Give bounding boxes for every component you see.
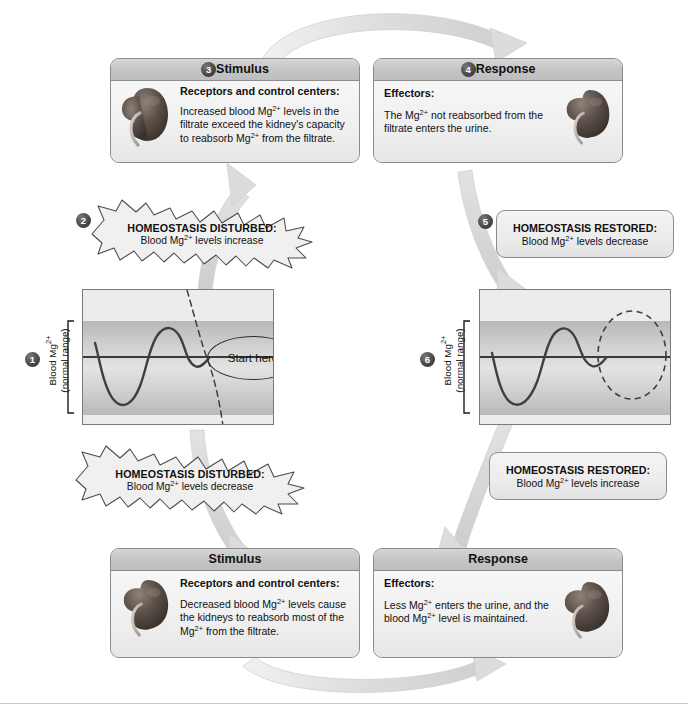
box-stimulus-top[interactable]: 3Stimulus: [110, 58, 360, 163]
box-response-top-header-label: Response: [476, 62, 536, 76]
kidney-icon: [119, 575, 173, 639]
box-stimulus-bottom-text: Receptors and control centers: Decreased…: [180, 577, 355, 638]
box-response-bottom-header: Response: [374, 549, 622, 571]
left-graph-solid-curve: [95, 328, 209, 405]
graph-left: Start here: [82, 289, 274, 425]
box-response-bottom-body: Effectors: Less Mg2+ enters the urine, a…: [374, 571, 622, 657]
kidney-icon: [560, 577, 614, 641]
box-response-bottom-header-label: Response: [468, 552, 528, 566]
callout-restored-bottom-line1: HOMEOSTASIS RESTORED:: [506, 464, 650, 476]
box-response-top-body: Effectors: The Mg2+ not reabsorbed from …: [374, 81, 622, 162]
dashed-ellipse: [598, 311, 666, 399]
callout-disturbed-bottom-labels: HOMEOSTASIS DISTURBED: Blood Mg2+ levels…: [72, 444, 308, 516]
box-stimulus-bottom-header-label: Stimulus: [209, 552, 262, 566]
box-stimulus-top-body: Receptors and control centers: Increased…: [111, 81, 359, 162]
box-stimulus-top-header: 3Stimulus: [111, 59, 359, 81]
callout-disturbed-top-labels: HOMEOSTASIS DISTURBED: Blood Mg2+ levels…: [88, 198, 316, 270]
box-stimulus-bottom[interactable]: Stimulus Receptors and control centers: …: [110, 548, 360, 658]
callout-disturbed-top-line1: HOMEOSTASIS DISTURBED:: [127, 222, 276, 234]
graph-right: [479, 289, 671, 425]
kidney-icon: [117, 83, 173, 149]
callout-disturbed-bottom-line2: Blood Mg2+ levels decrease: [127, 481, 253, 492]
right-graph-solid-curve: [492, 328, 606, 404]
callout-disturbed-top[interactable]: HOMEOSTASIS DISTURBED: Blood Mg2+ levels…: [88, 198, 316, 270]
box-stimulus-bottom-heading: Receptors and control centers:: [180, 577, 340, 589]
step-number-6: 6: [420, 352, 435, 367]
box-response-top-paragraph: The Mg2+ not reabsorbed from the filtrat…: [384, 109, 543, 134]
box-stimulus-top-paragraph: Increased blood Mg2+ levels in the filtr…: [180, 105, 345, 143]
callout-restored-top-line1: HOMEOSTASIS RESTORED:: [513, 222, 657, 234]
callout-disturbed-top-line2: Blood Mg2+ levels increase: [141, 235, 264, 246]
right-graph-plot: [480, 290, 671, 425]
box-stimulus-bottom-header: Stimulus: [111, 549, 359, 571]
callout-restored-bottom-line2: Blood Mg2+ levels increase: [517, 478, 640, 489]
callout-disturbed-bottom-line1: HOMEOSTASIS DISTURBED:: [115, 468, 264, 480]
box-response-bottom-paragraph: Less Mg2+ enters the urine, and the bloo…: [384, 599, 549, 624]
step-number-1: 1: [25, 352, 40, 367]
box-response-bottom[interactable]: Response Effectors: Less Mg2+ enters the…: [373, 548, 623, 658]
box-response-top-text: Effectors: The Mg2+ not reabsorbed from …: [384, 87, 559, 136]
callout-restored-top-line2: Blood Mg2+ levels decrease: [522, 236, 648, 247]
step-number-5: 5: [478, 214, 493, 229]
box-response-top-heading: Effectors:: [384, 87, 434, 99]
callout-disturbed-bottom[interactable]: HOMEOSTASIS DISTURBED: Blood Mg2+ levels…: [72, 444, 308, 516]
homeostasis-diagram: 3Stimulus: [0, 0, 688, 719]
box-response-bottom-text: Effectors: Less Mg2+ enters the urine, a…: [384, 577, 562, 626]
box-stimulus-top-text: Receptors and control centers: Increased…: [180, 85, 352, 145]
callout-restored-bottom[interactable]: HOMEOSTASIS RESTORED: Blood Mg2+ levels …: [489, 452, 667, 500]
box-stimulus-bottom-body: Receptors and control centers: Decreased…: [111, 571, 359, 657]
step-number-3: 3: [201, 62, 216, 77]
callout-restored-top[interactable]: HOMEOSTASIS RESTORED: Blood Mg2+ levels …: [496, 210, 674, 258]
kidney-icon: [562, 85, 614, 147]
box-stimulus-top-heading: Receptors and control centers:: [180, 85, 340, 97]
box-response-top[interactable]: 4Response Effectors: The Mg2+ not reabso…: [373, 58, 623, 163]
footer-divider: [0, 703, 688, 704]
box-response-top-header: 4Response: [374, 59, 622, 81]
box-response-bottom-heading: Effectors:: [384, 577, 434, 589]
box-stimulus-top-header-label: Stimulus: [216, 62, 269, 76]
right-graph-range-bracket: [462, 320, 471, 414]
box-stimulus-bottom-paragraph: Decreased blood Mg2+ levels cause the ki…: [180, 598, 346, 636]
left-graph-range-bracket: [66, 320, 75, 414]
step-number-4: 4: [461, 62, 476, 77]
